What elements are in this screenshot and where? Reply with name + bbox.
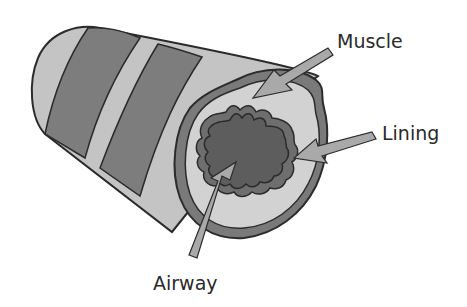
airway-diagram: Muscle Lining Airway	[0, 0, 467, 307]
label-lining: Lining	[382, 122, 439, 144]
label-airway: Airway	[153, 272, 218, 294]
label-muscle: Muscle	[337, 30, 403, 52]
